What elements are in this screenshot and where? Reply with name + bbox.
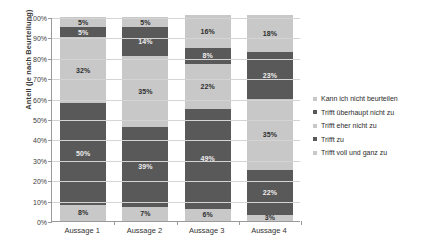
y-axis-tick-mark <box>48 120 52 121</box>
gridline <box>52 38 300 39</box>
bar-segment[interactable]: 49% <box>185 109 231 209</box>
bar-segment-label: 23% <box>263 72 277 79</box>
bar-segment[interactable]: 3% <box>247 215 293 221</box>
y-axis-tick-mark <box>48 59 52 60</box>
bar-segment-label: 18% <box>263 30 277 37</box>
bar-segment[interactable]: 35% <box>122 56 168 127</box>
bar-segment-label: 50% <box>76 150 90 157</box>
x-axis-tick-label: Aussage 4 <box>229 226 309 235</box>
bar-segment[interactable]: 8% <box>185 48 231 64</box>
stacked-bar-chart: Anteil (je nach Beurteilung) 100%90%80%7… <box>0 0 424 250</box>
y-axis-tick-label: 80% <box>33 55 47 62</box>
y-axis-tick-mark <box>48 222 52 223</box>
plot-area: 8%50%32%5%5%7%39%35%14%5%6%49%22%8%16%3%… <box>51 18 300 222</box>
bar-segment[interactable]: 8% <box>60 205 106 221</box>
legend-swatch-icon <box>313 151 317 155</box>
bar-segment-label: 16% <box>201 28 215 35</box>
legend-item[interactable]: Trifft eher nicht zu <box>313 119 423 133</box>
legend-item[interactable]: Trifft überhaupt nicht zu <box>313 106 423 120</box>
y-axis-tick-mark <box>48 202 52 203</box>
x-axis-tick-mark <box>177 221 178 225</box>
bar-segment-label: 5% <box>78 19 88 26</box>
y-axis-tick-mark <box>48 38 52 39</box>
y-axis-tick-mark <box>48 161 52 162</box>
bar-segment-label: 7% <box>140 210 150 217</box>
y-axis-tick-label: 0% <box>37 219 47 226</box>
y-axis-tick-label: 100% <box>29 15 47 22</box>
bar-segment-label: 8% <box>78 209 88 216</box>
bar-segment[interactable]: 32% <box>60 37 106 102</box>
y-axis-tick-label: 30% <box>33 157 47 164</box>
legend-item[interactable]: Trifft voll und ganz zu <box>313 146 423 160</box>
bar-segment[interactable]: 6% <box>185 209 231 221</box>
y-axis-tick-label: 90% <box>33 35 47 42</box>
gridline <box>52 59 300 60</box>
gridline <box>52 202 300 203</box>
bar-segment[interactable]: 7% <box>122 207 168 221</box>
x-axis-tick-mark <box>301 221 302 225</box>
legend-item[interactable]: Trifft zu <box>313 133 423 147</box>
bar-segment[interactable]: 35% <box>247 99 293 170</box>
bar-segment-label: 3% <box>265 215 275 221</box>
bar-segment-label: 35% <box>263 131 277 138</box>
gridline <box>52 100 300 101</box>
bar-segment[interactable]: 22% <box>185 64 231 109</box>
bar-segment[interactable]: 16% <box>185 15 231 48</box>
gridline <box>52 161 300 162</box>
legend-item[interactable]: Kann ich nicht beurteilen <box>313 92 423 106</box>
y-axis-tick-label: 60% <box>33 96 47 103</box>
legend-swatch-icon <box>313 124 317 128</box>
bar-segment-label: 6% <box>203 211 213 218</box>
legend-swatch-icon <box>313 110 317 114</box>
y-axis-tick-label: 20% <box>33 178 47 185</box>
bar-segment[interactable]: 22% <box>247 170 293 215</box>
bar-segment[interactable]: 50% <box>60 103 106 205</box>
bar-segment-label: 22% <box>201 83 215 90</box>
y-axis-tick-label: 70% <box>33 76 47 83</box>
x-axis-tick-mark <box>114 221 115 225</box>
y-axis-tick-label: 50% <box>33 117 47 124</box>
legend-swatch-icon <box>313 137 317 141</box>
y-axis-tick-mark <box>48 18 52 19</box>
bar-segment-label: 5% <box>140 19 150 26</box>
y-axis-tick-label: 40% <box>33 137 47 144</box>
x-axis-tick-labels: Aussage 1Aussage 2Aussage 3Aussage 4 <box>51 226 300 240</box>
chart-legend: Kann ich nicht beurteilenTrifft überhaup… <box>313 92 423 160</box>
bar-segment-label: 5% <box>78 29 88 36</box>
y-axis-tick-mark <box>48 181 52 182</box>
x-axis-tick-mark <box>239 221 240 225</box>
y-axis-tick-labels: 100%90%80%70%60%50%40%30%20%10%0% <box>18 14 50 222</box>
gridline <box>52 18 300 19</box>
y-axis-tick-label: 10% <box>33 198 47 205</box>
legend-label: Trifft voll und ganz zu <box>321 149 387 156</box>
legend-label: Kann ich nicht beurteilen <box>321 95 398 102</box>
legend-swatch-icon <box>313 97 317 101</box>
gridline <box>52 120 300 121</box>
legend-label: Trifft überhaupt nicht zu <box>321 109 394 116</box>
y-axis-tick-mark <box>48 79 52 80</box>
bar-segment-label: 32% <box>76 67 90 74</box>
bar-segment[interactable]: 39% <box>122 127 168 207</box>
bar-segment-label: 39% <box>138 163 152 170</box>
gridline <box>52 140 300 141</box>
y-axis-tick-mark <box>48 140 52 141</box>
bar-segment-label: 22% <box>263 189 277 196</box>
y-axis-tick-mark <box>48 100 52 101</box>
bar-segment[interactable]: 5% <box>60 27 106 37</box>
bar-segment[interactable]: 18% <box>247 15 293 52</box>
gridline <box>52 181 300 182</box>
bar-segment-label: 35% <box>138 88 152 95</box>
legend-label: Trifft zu <box>321 136 344 143</box>
gridline <box>52 79 300 80</box>
legend-label: Trifft eher nicht zu <box>321 122 377 129</box>
bar-segment[interactable]: 14% <box>122 27 168 56</box>
